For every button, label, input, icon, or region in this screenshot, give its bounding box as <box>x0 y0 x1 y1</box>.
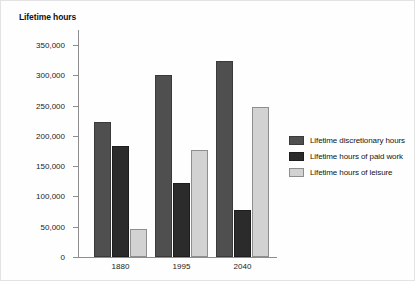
x-axis-label: 1995 <box>155 262 208 271</box>
bar[interactable] <box>112 146 129 257</box>
y-axis-tick-label: 150,000 <box>36 162 65 171</box>
y-axis-tick <box>73 196 78 197</box>
x-axis-line <box>78 257 277 258</box>
y-axis-tick <box>73 136 78 137</box>
y-axis-tick-label: 200,000 <box>36 131 65 140</box>
chart-figure: Lifetime hours 050,000100,000150,000200,… <box>0 0 415 281</box>
chart-axis-title: Lifetime hours <box>19 12 76 22</box>
y-axis-tick-label: 300,000 <box>36 71 65 80</box>
y-axis-tick <box>73 166 78 167</box>
bar[interactable] <box>216 61 233 257</box>
legend-swatch-icon <box>289 168 304 177</box>
legend-item-label: Lifetime discretionary hours <box>310 136 405 145</box>
y-axis-tick <box>73 45 78 46</box>
bar-group <box>216 30 271 257</box>
x-axis-label: 1880 <box>94 262 147 271</box>
bar[interactable] <box>173 183 190 257</box>
bar[interactable] <box>252 107 269 257</box>
x-axis-label: 2040 <box>216 262 269 271</box>
bar[interactable] <box>155 75 172 257</box>
legend-item[interactable]: Lifetime hours of paid work <box>289 149 405 163</box>
legend-swatch-icon <box>289 136 304 145</box>
bar-group <box>94 30 149 257</box>
legend-item-label: Lifetime hours of paid work <box>310 152 403 161</box>
y-axis-tick <box>73 227 78 228</box>
bar[interactable] <box>234 210 251 257</box>
y-axis-tick-label: 350,000 <box>36 41 65 50</box>
y-axis-tick-label: 50,000 <box>41 222 65 231</box>
y-axis-line <box>78 30 79 258</box>
bar-group <box>155 30 210 257</box>
bar[interactable] <box>94 122 111 257</box>
y-axis-tick <box>73 257 78 258</box>
y-axis-tick-label: 100,000 <box>36 192 65 201</box>
y-axis-tick <box>73 75 78 76</box>
legend-item[interactable]: Lifetime discretionary hours <box>289 133 405 147</box>
legend-item-label: Lifetime hours of leisure <box>310 168 392 177</box>
bar[interactable] <box>191 150 208 257</box>
y-axis-tick-label: 250,000 <box>36 101 65 110</box>
chart-legend: Lifetime discretionary hoursLifetime hou… <box>289 133 405 181</box>
y-axis-tick-label: 0 <box>61 253 65 262</box>
y-axis-tick <box>73 106 78 107</box>
legend-swatch-icon <box>289 152 304 161</box>
plot-area: 050,000100,000150,000200,000250,000300,0… <box>78 30 277 258</box>
bar[interactable] <box>130 229 147 257</box>
legend-item[interactable]: Lifetime hours of leisure <box>289 165 405 179</box>
